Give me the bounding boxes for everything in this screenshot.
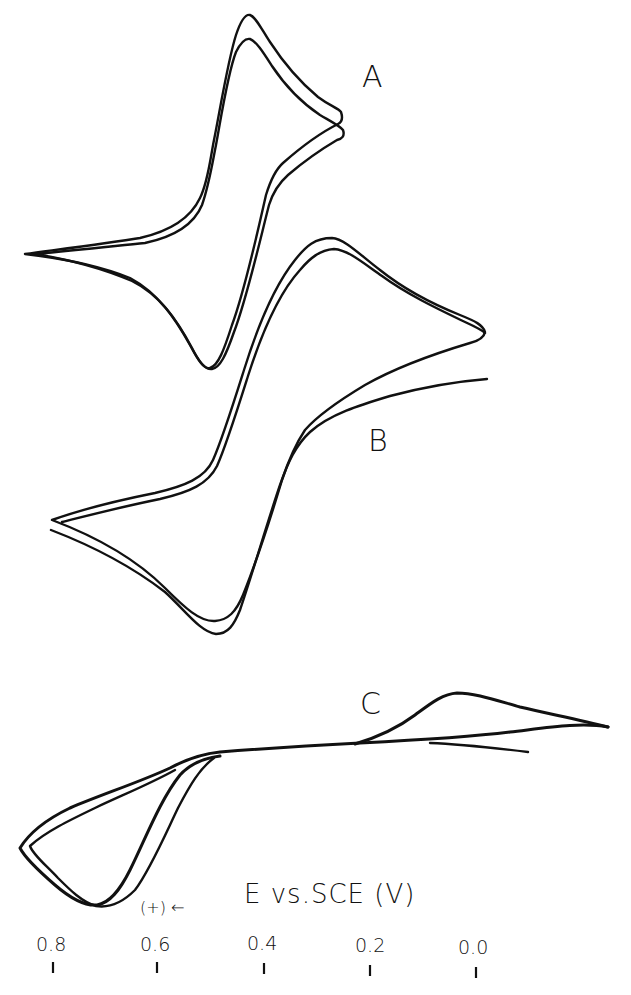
curve-a-scan-2 bbox=[35, 39, 344, 369]
curve-c-tail bbox=[430, 743, 528, 752]
curve-b-label: B bbox=[368, 423, 388, 458]
curve-b-scan-1 bbox=[52, 238, 485, 621]
curve-b-tail bbox=[51, 379, 487, 634]
curve-a-scan-1 bbox=[25, 15, 342, 368]
curve-c-label: C bbox=[360, 686, 381, 721]
x-axis-title: E vs.SCE (V) bbox=[244, 879, 415, 909]
curve-c bbox=[20, 693, 608, 906]
tick-label-0.4: 0.4 bbox=[247, 932, 277, 954]
tick-label-0.2: 0.2 bbox=[355, 934, 385, 956]
tick-label-0.6: 0.6 bbox=[140, 933, 170, 955]
direction-indicator: (+) ← bbox=[140, 898, 184, 917]
curve-b bbox=[51, 238, 487, 634]
curve-a bbox=[25, 15, 344, 369]
curve-a-label: A bbox=[362, 59, 383, 94]
curve-b-scan-2 bbox=[62, 249, 485, 522]
cyclic-voltammogram-figure: A B C (+) ← E vs.SCE (V) 0.8 bbox=[0, 0, 631, 995]
x-axis-ticks: 0.8 0.6 0.4 0.2 0.0 bbox=[36, 932, 488, 978]
tick-label-0.8: 0.8 bbox=[36, 933, 66, 955]
tick-label-0.0: 0.0 bbox=[458, 936, 488, 958]
chart-canvas: A B C (+) ← E vs.SCE (V) 0.8 bbox=[0, 0, 631, 995]
